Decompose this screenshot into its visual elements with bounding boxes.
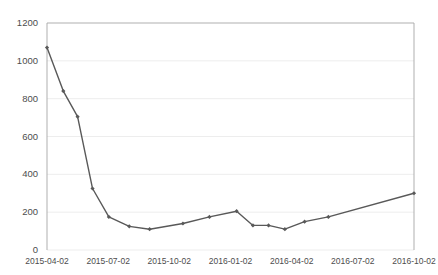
- x-tick-label-1: 2015-07-02: [73, 256, 143, 266]
- x-tick-label-3: 2016-01-02: [196, 256, 266, 266]
- data-point-6: [148, 227, 152, 231]
- line-chart: 020040060080010001200 2015-04-022015-07-…: [0, 0, 438, 275]
- chart-plot-area: [0, 0, 438, 275]
- gridlines: [47, 23, 414, 250]
- data-line-series-1: [47, 48, 414, 230]
- y-tick-label-400: 400: [4, 169, 38, 179]
- y-tick-label-1000: 1000: [4, 56, 38, 66]
- data-point-0: [45, 45, 49, 49]
- data-point-7: [181, 221, 185, 225]
- x-tick-label-6: 2016-10-02: [379, 256, 438, 266]
- y-tick-label-1200: 1200: [4, 18, 38, 28]
- y-tick-label-0: 0: [4, 245, 38, 255]
- data-point-15: [412, 191, 416, 195]
- data-point-12: [283, 227, 287, 231]
- x-tick-label-4: 2016-04-02: [257, 256, 327, 266]
- y-tick-label-800: 800: [4, 94, 38, 104]
- y-tick-label-600: 600: [4, 132, 38, 142]
- x-tick-label-5: 2016-07-02: [318, 256, 388, 266]
- y-tick-label-200: 200: [4, 207, 38, 217]
- data-point-13: [302, 220, 306, 224]
- x-tick-label-2: 2015-10-02: [134, 256, 204, 266]
- data-point-11: [266, 223, 270, 227]
- data-point-8: [207, 215, 211, 219]
- data-point-5: [127, 224, 131, 228]
- data-point-14: [326, 215, 330, 219]
- x-tick-label-0: 2015-04-02: [12, 256, 82, 266]
